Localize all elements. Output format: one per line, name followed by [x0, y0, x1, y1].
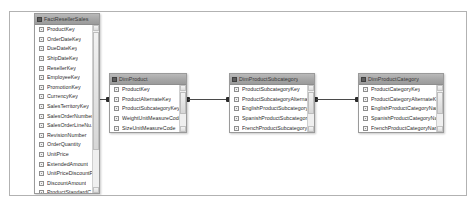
column-label: ProductStandardC... — [47, 189, 92, 193]
table-column[interactable]: ResellerKey — [35, 63, 92, 73]
column-icon — [39, 37, 44, 42]
table-icon — [232, 77, 237, 82]
column-label: SizeUnitMeasureCode — [122, 125, 176, 132]
column-label: ProductAlternateKey — [122, 96, 171, 103]
column-label: SpanishProductSubcategoryName — [242, 115, 307, 122]
column-icon — [39, 142, 44, 147]
table-column[interactable]: EnglishProductCategoryName — [359, 104, 436, 114]
column-icon — [39, 152, 44, 157]
table-column[interactable]: ProductCategoryAlternateKey — [359, 95, 436, 105]
scrollbar-thumb[interactable] — [93, 32, 99, 150]
column-icon — [363, 116, 368, 121]
table-column[interactable]: SalesOrderNumber — [35, 111, 92, 121]
table-dim-product[interactable]: DimProduct ProductKey ProductAlternateKe… — [109, 73, 187, 133]
table-column[interactable]: FrenchProductSubcategoryName — [230, 123, 307, 132]
table-column[interactable]: SalesOrderLineNu... — [35, 121, 92, 131]
table-column[interactable]: ShipDateKey — [35, 54, 92, 64]
column-icon — [39, 181, 44, 186]
column-label: FrenchProductSubcategoryName — [242, 125, 307, 132]
relationship-line — [316, 99, 358, 100]
column-icon — [39, 94, 44, 99]
table-column[interactable]: RevisionNumber — [35, 131, 92, 141]
column-icon — [114, 126, 119, 131]
column-icon — [234, 116, 239, 121]
table-column[interactable]: ExtendedAmount — [35, 159, 92, 169]
column-icon — [234, 126, 239, 131]
table-column[interactable]: ProductKey — [35, 25, 92, 35]
column-label: ExtendedAmount — [47, 161, 88, 168]
scroll-down-arrow-icon[interactable] — [93, 187, 99, 193]
scroll-down-arrow-icon[interactable] — [180, 126, 186, 132]
table-column[interactable]: DueDateKey — [35, 44, 92, 54]
column-label: DueDateKey — [47, 45, 77, 52]
table-fact-reseller-sales[interactable]: FactResellerSales ProductKey OrderDateKe… — [34, 13, 100, 194]
table-column[interactable]: ProductSubcategoryKey — [230, 85, 307, 95]
table-column[interactable]: EmployeeKey — [35, 73, 92, 83]
scroll-up-arrow-icon[interactable] — [93, 25, 99, 31]
table-title-bar[interactable]: DimProductSubcategory — [230, 74, 314, 85]
vertical-scrollbar[interactable] — [436, 85, 443, 132]
scrollbar-thumb[interactable] — [180, 92, 186, 114]
column-icon — [234, 97, 239, 102]
column-list: ProductKey OrderDateKey DueDateKey ShipD… — [35, 25, 92, 193]
table-column[interactable]: SpanishProductSubcategoryName — [230, 114, 307, 124]
table-column[interactable]: OrderDateKey — [35, 35, 92, 45]
table-column[interactable]: ProductCategoryKey — [359, 85, 436, 95]
column-label: UnitPriceDiscountP... — [47, 170, 92, 177]
scrollbar-thumb[interactable] — [308, 92, 314, 114]
column-label: SalesOrderLineNu... — [47, 122, 92, 129]
column-list: ProductKey ProductAlternateKey ProductSu… — [110, 85, 179, 132]
column-icon — [39, 66, 44, 71]
table-column[interactable]: FrenchProductCategoryName — [359, 123, 436, 132]
table-column[interactable]: SpanishProductCategoryName — [359, 114, 436, 124]
column-label: RevisionNumber — [47, 132, 87, 139]
column-icon — [114, 97, 119, 102]
table-column[interactable]: ProductAlternateKey — [110, 95, 179, 105]
table-column[interactable]: EnglishProductSubcategoryName — [230, 104, 307, 114]
table-icon — [361, 77, 366, 82]
vertical-scrollbar[interactable] — [92, 25, 99, 193]
column-icon — [363, 97, 368, 102]
column-list: ProductCategoryKey ProductCategoryAltern… — [359, 85, 436, 132]
column-label: WeightUnitMeasureCode — [122, 115, 179, 122]
column-icon — [39, 133, 44, 138]
column-icon — [363, 87, 368, 92]
table-column[interactable]: ProductSubcategoryKey — [110, 104, 179, 114]
table-title-bar[interactable]: FactResellerSales — [35, 14, 99, 25]
table-column[interactable]: SalesTerritoryKey — [35, 102, 92, 112]
table-column[interactable]: DiscountAmount — [35, 179, 92, 189]
scroll-down-arrow-icon[interactable] — [308, 126, 314, 132]
scroll-down-arrow-icon[interactable] — [437, 126, 443, 132]
column-icon — [39, 104, 44, 109]
table-column[interactable]: SizeUnitMeasureCode — [110, 123, 179, 132]
column-label: ProductKey — [47, 26, 75, 33]
table-title-bar[interactable]: DimProductCategory — [359, 74, 443, 85]
column-label: FrenchProductCategoryName — [371, 125, 436, 132]
column-label: ResellerKey — [47, 65, 76, 72]
table-dim-product-subcategory[interactable]: DimProductSubcategory ProductSubcategory… — [229, 73, 315, 133]
table-column[interactable]: UnitPrice — [35, 150, 92, 160]
table-dim-product-category[interactable]: DimProductCategory ProductCategoryKey Pr… — [358, 73, 444, 133]
scroll-up-arrow-icon[interactable] — [437, 85, 443, 91]
table-icon — [112, 77, 117, 82]
column-icon — [39, 162, 44, 167]
table-column[interactable]: ProductSubcategoryAlternateKey — [230, 95, 307, 105]
table-column[interactable]: CurrencyKey — [35, 92, 92, 102]
scroll-up-arrow-icon[interactable] — [180, 85, 186, 91]
table-title-bar[interactable]: DimProduct — [110, 74, 186, 85]
column-label: OrderQuantity — [47, 141, 81, 148]
relationship-line — [188, 99, 230, 100]
scrollbar-thumb[interactable] — [437, 92, 443, 114]
scroll-up-arrow-icon[interactable] — [308, 85, 314, 91]
table-column[interactable]: PromotionKey — [35, 83, 92, 93]
column-label: ProductCategoryKey — [371, 86, 420, 93]
vertical-scrollbar[interactable] — [179, 85, 186, 132]
data-source-view-canvas[interactable]: FactResellerSales ProductKey OrderDateKe… — [9, 11, 467, 196]
table-column[interactable]: ProductStandardC... — [35, 188, 92, 193]
vertical-scrollbar[interactable] — [307, 85, 314, 132]
table-column[interactable]: OrderQuantity — [35, 140, 92, 150]
table-column[interactable]: UnitPriceDiscountP... — [35, 169, 92, 179]
column-icon — [114, 87, 119, 92]
table-column[interactable]: WeightUnitMeasureCode — [110, 114, 179, 124]
table-column[interactable]: ProductKey — [110, 85, 179, 95]
